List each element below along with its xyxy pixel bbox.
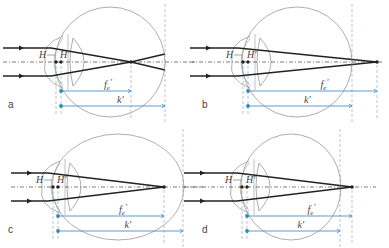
label-focal-length: fe' bbox=[104, 77, 113, 92]
principal-point-H-prime bbox=[56, 185, 59, 188]
principal-point-H bbox=[54, 60, 57, 63]
ray-arrow-icon bbox=[27, 171, 32, 176]
label-axial-length: k' bbox=[117, 94, 124, 105]
axial-start-marker bbox=[245, 229, 249, 233]
label-H: H bbox=[225, 49, 234, 60]
panel-d: HH'fe'k'd bbox=[184, 129, 376, 247]
label-axial-length: k' bbox=[304, 94, 311, 105]
label-H: H bbox=[38, 49, 47, 60]
panel-c: HH'fe'k'c bbox=[8, 129, 203, 247]
ray-arrow-icon bbox=[19, 74, 24, 79]
refracted-ray-bottom bbox=[48, 187, 164, 201]
focal-start-marker bbox=[59, 89, 63, 93]
ray-arrow-icon bbox=[200, 171, 205, 176]
eye-refraction-figure: HH'fe'k'aHH'fe'k'bHH'fe'k'cHH'fe'k'd bbox=[0, 0, 389, 248]
label-H: H bbox=[224, 174, 233, 185]
panel-a: HH'fe'k'a bbox=[3, 4, 195, 122]
focal-point bbox=[162, 185, 166, 189]
focal-point bbox=[375, 60, 379, 64]
label-H-prime: H' bbox=[59, 49, 70, 60]
focal-start-marker bbox=[246, 89, 250, 93]
ray-arrow-icon bbox=[19, 46, 24, 51]
focal-point bbox=[350, 185, 354, 189]
refracted-ray-bottom bbox=[238, 62, 377, 76]
ray-arrow-icon bbox=[200, 199, 205, 204]
label-axial-length: k' bbox=[125, 219, 132, 230]
focal-start-marker bbox=[245, 214, 249, 218]
label-focal-length: fe' bbox=[308, 202, 317, 217]
label-H-prime: H' bbox=[56, 174, 67, 185]
label-focal-length: fe' bbox=[321, 77, 330, 92]
principal-point-H-prime bbox=[59, 60, 62, 63]
axial-start-marker bbox=[59, 104, 63, 108]
panel-label-b: b bbox=[202, 99, 208, 110]
axial-start-marker bbox=[56, 229, 60, 233]
principal-point-H bbox=[240, 185, 243, 188]
principal-point-H-prime bbox=[246, 60, 249, 63]
label-H-prime: H' bbox=[245, 174, 256, 185]
focal-point bbox=[129, 60, 133, 64]
panel-label-c: c bbox=[8, 224, 13, 235]
focal-start-marker bbox=[56, 214, 60, 218]
label-H: H bbox=[35, 174, 44, 185]
principal-point-H-prime bbox=[245, 185, 248, 188]
refracted-ray-top bbox=[238, 48, 377, 62]
principal-point-H bbox=[241, 60, 244, 63]
label-axial-length: k' bbox=[298, 219, 305, 230]
ray-arrow-icon bbox=[206, 74, 211, 79]
ray-arrow-icon bbox=[27, 199, 32, 204]
panel-b: HH'fe'k'b bbox=[190, 4, 382, 122]
label-H-prime: H' bbox=[246, 49, 257, 60]
panel-label-a: a bbox=[8, 99, 14, 110]
principal-point-H bbox=[51, 185, 54, 188]
label-focal-length: fe' bbox=[119, 202, 128, 217]
axial-start-marker bbox=[246, 104, 250, 108]
ray-arrow-icon bbox=[206, 46, 211, 51]
panel-label-d: d bbox=[202, 224, 208, 235]
